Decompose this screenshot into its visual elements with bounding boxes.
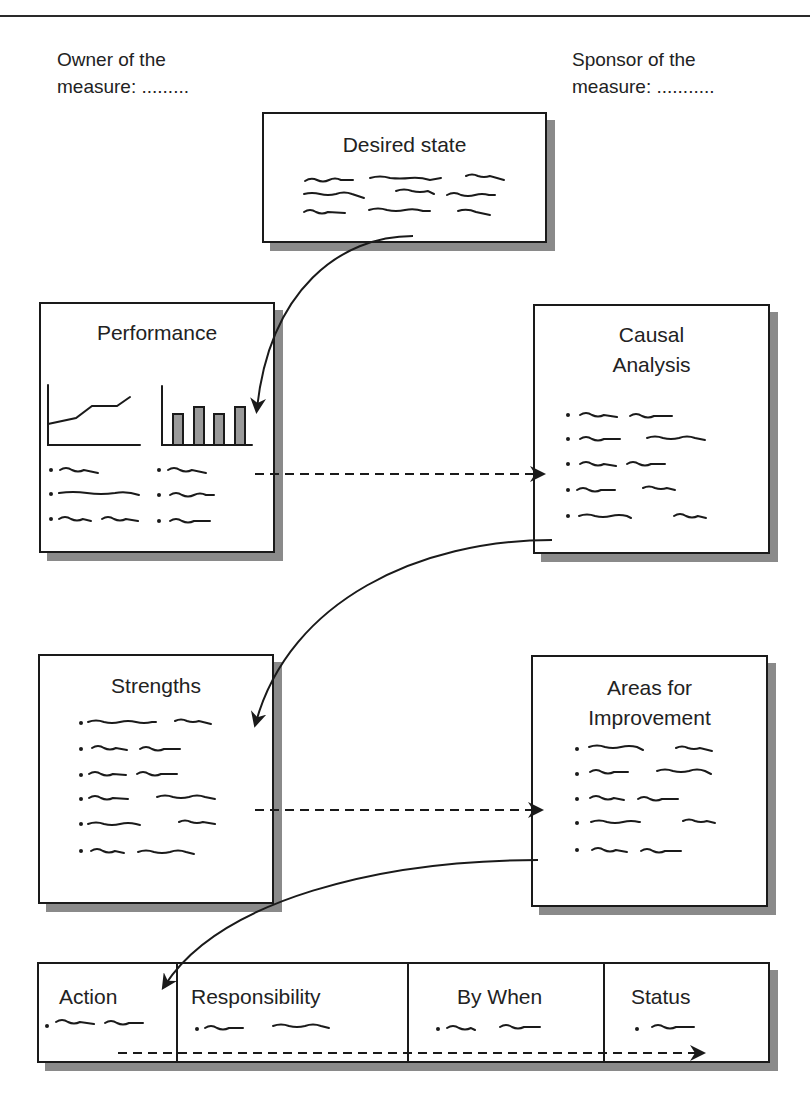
connector-desired-to-performance [257,236,413,408]
desired-state-box: Desired state [262,112,547,243]
column-status: Status [631,982,691,1012]
column-by-when: By When [457,982,542,1012]
column-action: Action [59,982,117,1012]
sponsor-label: Sponsor of the measure: ........... [572,46,715,100]
top-rule [0,15,810,17]
desired-state-title: Desired state [264,130,545,160]
connector-causal-to-strengths [256,540,552,722]
performance-title: Performance [41,318,273,348]
strengths-box: Strengths [38,654,274,904]
areas-for-improvement-box: Areas for Improvement [531,655,768,907]
causal-analysis-title: Causal Analysis [535,320,768,380]
column-divider [603,964,605,1061]
column-divider [407,964,409,1061]
column-divider [176,964,178,1061]
causal-analysis-box: Causal Analysis [533,304,770,554]
action-table: Action Responsibility By When Status [37,962,770,1063]
column-responsibility: Responsibility [191,982,321,1012]
performance-box: Performance [39,302,275,553]
owner-label: Owner of the measure: ......... [57,46,189,100]
areas-for-improvement-title: Areas for Improvement [533,673,766,733]
strengths-title: Strengths [40,671,272,701]
